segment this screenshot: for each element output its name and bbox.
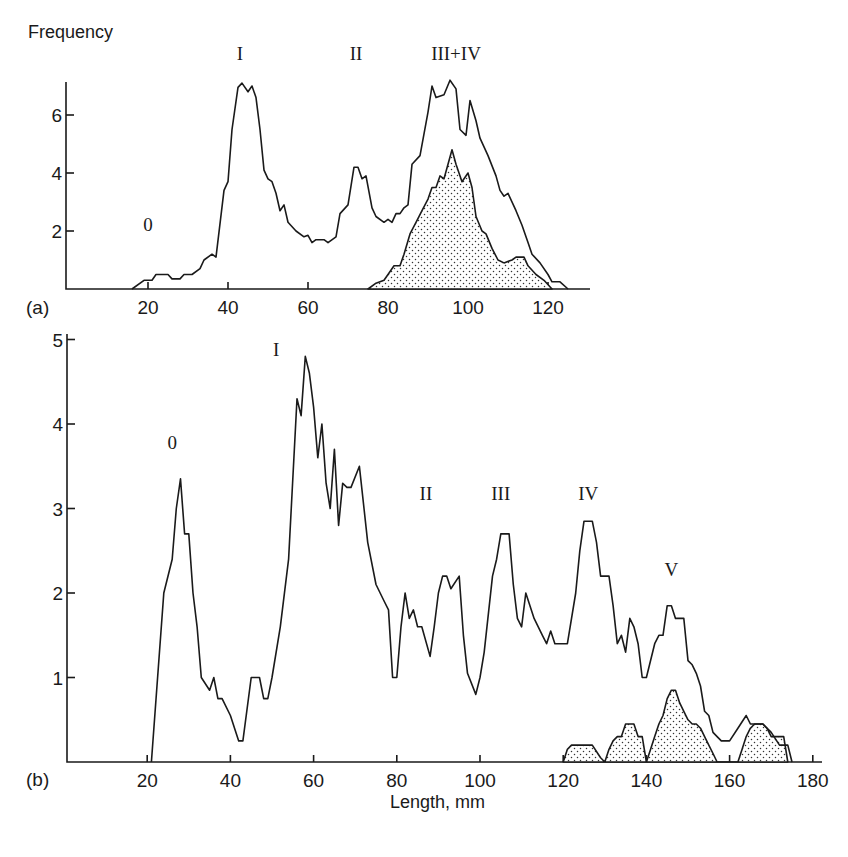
x-tick-label: 20 — [137, 297, 158, 318]
age-class-label: I — [237, 43, 243, 64]
axis-lines — [66, 82, 590, 289]
x-tick-label: 80 — [377, 297, 398, 318]
frequency-curve — [132, 80, 568, 289]
age-class-label: V — [664, 559, 678, 580]
x-tick-label: 100 — [452, 297, 484, 318]
y-tick-label: 4 — [51, 163, 62, 184]
stippled-distribution-area — [368, 150, 552, 289]
y-tick-label: 2 — [51, 221, 62, 242]
panel-a-histogram: Frequency 20406080100120246 0IIIIII+IV (… — [26, 22, 590, 318]
x-tick-label: 80 — [386, 770, 407, 791]
y-tick-label: 5 — [52, 330, 63, 351]
x-tick-label: 100 — [464, 770, 496, 791]
age-class-label: III — [491, 483, 510, 504]
x-tick-label: 120 — [547, 770, 579, 791]
panel-a-series — [132, 80, 568, 289]
stippled-distribution-area — [563, 690, 788, 762]
panel-b-peak-labels: 0IIIIIIIVV — [167, 339, 678, 580]
y-axis-title: Frequency — [28, 22, 113, 42]
axis-lines — [67, 334, 822, 762]
x-tick-label: 160 — [714, 770, 746, 791]
y-tick-label: 1 — [52, 668, 63, 689]
age-class-label: IV — [578, 483, 598, 504]
length-frequency-chart: Frequency 20406080100120246 0IIIIII+IV (… — [0, 0, 848, 857]
x-axis-title: Length, mm — [390, 792, 485, 812]
x-tick-label: 140 — [631, 770, 663, 791]
y-tick-label: 6 — [51, 105, 62, 126]
x-tick-label: 60 — [303, 770, 324, 791]
x-tick-label: 60 — [297, 297, 318, 318]
x-tick-label: 180 — [797, 770, 829, 791]
y-tick-label: 3 — [52, 499, 63, 520]
panel-b-series — [151, 356, 792, 762]
age-class-label: II — [350, 43, 363, 64]
frequency-curve — [151, 356, 792, 762]
x-tick-label: 120 — [532, 297, 564, 318]
age-class-label: II — [420, 483, 433, 504]
age-class-label: 0 — [143, 214, 153, 235]
age-class-label: 0 — [167, 432, 177, 453]
y-tick-label: 4 — [52, 414, 63, 435]
age-class-label: III+IV — [431, 43, 481, 64]
x-tick-label: 20 — [137, 770, 158, 791]
x-tick-label: 40 — [220, 770, 241, 791]
x-tick-label: 40 — [217, 297, 238, 318]
panel-b-histogram: 2040608010012014016018012345 0IIIIIIIVV … — [26, 330, 829, 813]
panel-b-label: (b) — [26, 769, 49, 790]
age-class-label: I — [273, 339, 279, 360]
panel-b-axes: 2040608010012014016018012345 — [52, 330, 828, 792]
panel-a-label: (a) — [26, 297, 49, 318]
y-tick-label: 2 — [52, 583, 63, 604]
